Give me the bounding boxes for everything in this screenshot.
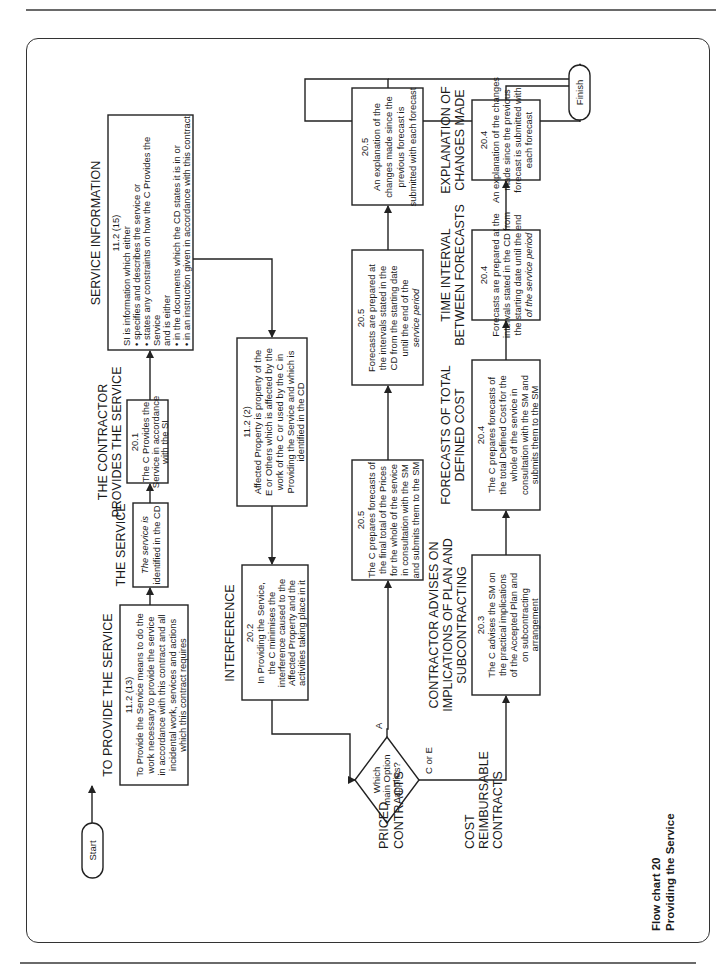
svg-text:The service is: The service is: [139, 516, 150, 574]
svg-text:forecast is submitted with: forecast is submitted with: [512, 87, 523, 192]
svg-text:Forecasts are prepared at the: Forecasts are prepared at the: [490, 213, 501, 337]
svg-text:11.2 (13): 11.2 (13): [123, 677, 134, 714]
svg-text:The C prepares forecasts of: The C prepares forecasts of: [366, 462, 377, 579]
box-service-information: 11.2 (15) SI is information which either…: [108, 115, 193, 350]
svg-text:the final total of the Prices: the final total of the Prices: [377, 466, 388, 574]
caption-line2: Providing the Service: [664, 813, 676, 931]
svg-text:The C prepares forecasts of: The C prepares forecasts of: [486, 377, 497, 494]
svg-text:service period: service period: [410, 288, 421, 347]
svg-text:made since the previous: made since the previous: [501, 89, 512, 191]
svg-text:work necessary to provide the: work necessary to provide the service: [145, 617, 156, 775]
box-priced-interval: 20.5 Forecasts are prepared at the inter…: [352, 250, 423, 385]
heading-contractor-1: THE CONTRACTOR: [96, 384, 110, 500]
svg-text:the intervals stated in the: the intervals stated in the: [377, 266, 388, 370]
svg-text:the practical implications: the practical implications: [497, 574, 508, 676]
heading-service-information: SERVICE INFORMATION: [89, 161, 103, 306]
svg-text:whole of the service in: whole of the service in: [508, 389, 519, 483]
svg-text:arrangement: arrangement: [529, 598, 540, 652]
svg-text:20.3: 20.3: [475, 616, 486, 634]
svg-text:each forecast: each forecast: [523, 111, 534, 168]
svg-text:for the whole of the service: for the whole of the service: [388, 464, 399, 576]
finish-terminal: Finish: [569, 64, 590, 120]
heading-explanation-2: CHANGES MADE: [453, 89, 467, 190]
svg-text:previous forecast is: previous forecast is: [395, 106, 406, 187]
svg-text:which this contract requires: which this contract requires: [177, 638, 188, 753]
svg-text:• in an instruction given in a: • in an instruction given in accordance …: [181, 116, 192, 346]
heading-forecasts-2: DEFINED COST: [453, 388, 467, 481]
svg-text:identified in the CD: identified in the CD: [151, 505, 162, 584]
branch-ce-label: C or E: [423, 747, 434, 774]
heading-advises-3: SUBCONTRACTING: [455, 566, 469, 683]
svg-text:20.4: 20.4: [478, 266, 489, 284]
heading-contractor-2: PROVIDES THE SERVICE: [110, 367, 124, 518]
label-priced-1: PRICED: [377, 802, 391, 849]
label-cost-2: REIMBURSABLE: [477, 751, 491, 849]
box-provide-service: 11.2 (13) To Provide the Service means t…: [120, 605, 188, 785]
box-priced-forecast: 20.5 The C prepares forecasts of the fin…: [352, 460, 423, 580]
svg-text:20.4: 20.4: [478, 131, 489, 149]
svg-text:Start: Start: [87, 840, 98, 860]
svg-text:intervals stated in the CD fro: intervals stated in the CD from: [501, 212, 512, 338]
heading-advises-1: CONTRACTOR ADVISES ON: [427, 541, 441, 708]
heading-provide: TO PROVIDE THE SERVICE: [101, 613, 115, 776]
box-cost-interval: 20.4 Forecasts are prepared at the inter…: [472, 212, 540, 338]
svg-text:20.5: 20.5: [359, 138, 370, 156]
svg-text:submitted with each forecast: submitted with each forecast: [407, 87, 418, 206]
svg-text:An explanation of the: An explanation of the: [371, 103, 382, 191]
svg-text:In Providing the Service,: In Providing the Service,: [255, 582, 266, 684]
svg-text:An explanation of the changes: An explanation of the changes: [490, 77, 501, 203]
svg-text:the total Defined Cost for the: the total Defined Cost for the: [497, 375, 508, 494]
box-priced-explanation: 20.5 An explanation of the changes made …: [352, 87, 423, 206]
svg-text:with the SI: with the SI: [159, 420, 170, 465]
start-terminal: Start: [82, 823, 103, 878]
box-contractor-provides: 20.1 The C Provides the Service in accor…: [127, 396, 170, 488]
heading-advises-2: IMPLICATIONS OF PLAN AND: [441, 538, 455, 711]
heading-explanation-1: EXPLANATION OF: [439, 86, 453, 194]
svg-text:activities taking place in it: activities taking place in it: [296, 580, 307, 686]
branch-a-label: A: [373, 722, 384, 729]
box-interference: 20.2 In Providing the Service, the C min…: [242, 565, 308, 700]
svg-text:submits them to the SM: submits them to the SM: [529, 386, 540, 485]
svg-text:identified in the CD: identified in the CD: [295, 382, 306, 461]
box-cost-forecast: 20.4 The C prepares forecasts of the tot…: [472, 360, 540, 510]
svg-text:20.4: 20.4: [475, 426, 486, 444]
svg-text:20.2: 20.2: [244, 624, 255, 642]
svg-text:in accordance with this contra: in accordance with this contract and all: [156, 614, 167, 775]
svg-text:of the service period: of the service period: [523, 232, 534, 317]
svg-text:E or Others which is affected: E or Others which is affected by the: [263, 348, 274, 496]
svg-text:changes made since the: changes made since the: [383, 96, 394, 198]
box-cost-explanation: 20.4 An explanation of the changes made …: [472, 77, 540, 203]
svg-text:11.2 (15): 11.2 (15): [110, 215, 121, 252]
label-priced-2: CONTRACTS: [392, 771, 406, 849]
heading-interval-1: TIME INTERVAL: [439, 228, 453, 321]
svg-text:CD from the starting date: CD from the starting date: [388, 266, 399, 371]
box-advises: 20.3 The C advises the SM on the practic…: [472, 555, 540, 695]
svg-text:work of the C or used by the C: work of the C or used by the C in: [274, 354, 285, 492]
svg-text:20.5: 20.5: [355, 511, 366, 529]
heading-interval-2: BETWEEN FORECASTS: [453, 204, 467, 346]
caption-line1: Flow chart 20: [650, 858, 662, 932]
svg-text:Forecasts are prepared at: Forecasts are prepared at: [366, 264, 377, 372]
svg-text:20.5: 20.5: [355, 309, 366, 327]
svg-text:11.2 (2): 11.2 (2): [241, 406, 252, 438]
svg-text:The C advises the SM on: The C advises the SM on: [486, 572, 497, 677]
box-affected-property: 11.2 (2) Affected Property is property o…: [237, 338, 307, 506]
box-the-service: The service is identified in the CD: [133, 503, 168, 587]
label-cost-1: COST: [463, 814, 477, 849]
svg-text:the starting date until the en: the starting date until the end: [512, 215, 523, 336]
svg-text:and submits them to the SM: and submits them to the SM: [410, 461, 421, 578]
svg-text:until the end of the: until the end of the: [399, 279, 410, 356]
svg-text:To Provide the Service means t: To Provide the Service means to do the: [134, 613, 145, 777]
heading-forecasts-1: FORECASTS OF TOTAL: [439, 365, 453, 505]
flowchart: Start TO PROVIDE THE SERVICE 11.2 (13) T…: [0, 0, 727, 979]
flowchart-stage: Start TO PROVIDE THE SERVICE 11.2 (13) T…: [0, 0, 727, 979]
svg-text:20.1: 20.1: [129, 433, 140, 451]
label-cost-3: CONTRACTS: [491, 771, 505, 849]
svg-text:Finish: Finish: [574, 80, 585, 105]
heading-interference: INTERFERENCE: [223, 584, 237, 681]
svg-text:Affected Property is property: Affected Property is property of the: [252, 350, 263, 495]
svg-text:of the Accepted Plan and: of the Accepted Plan and: [508, 573, 519, 677]
svg-text:in consultation with the SM: in consultation with the SM: [399, 464, 410, 576]
